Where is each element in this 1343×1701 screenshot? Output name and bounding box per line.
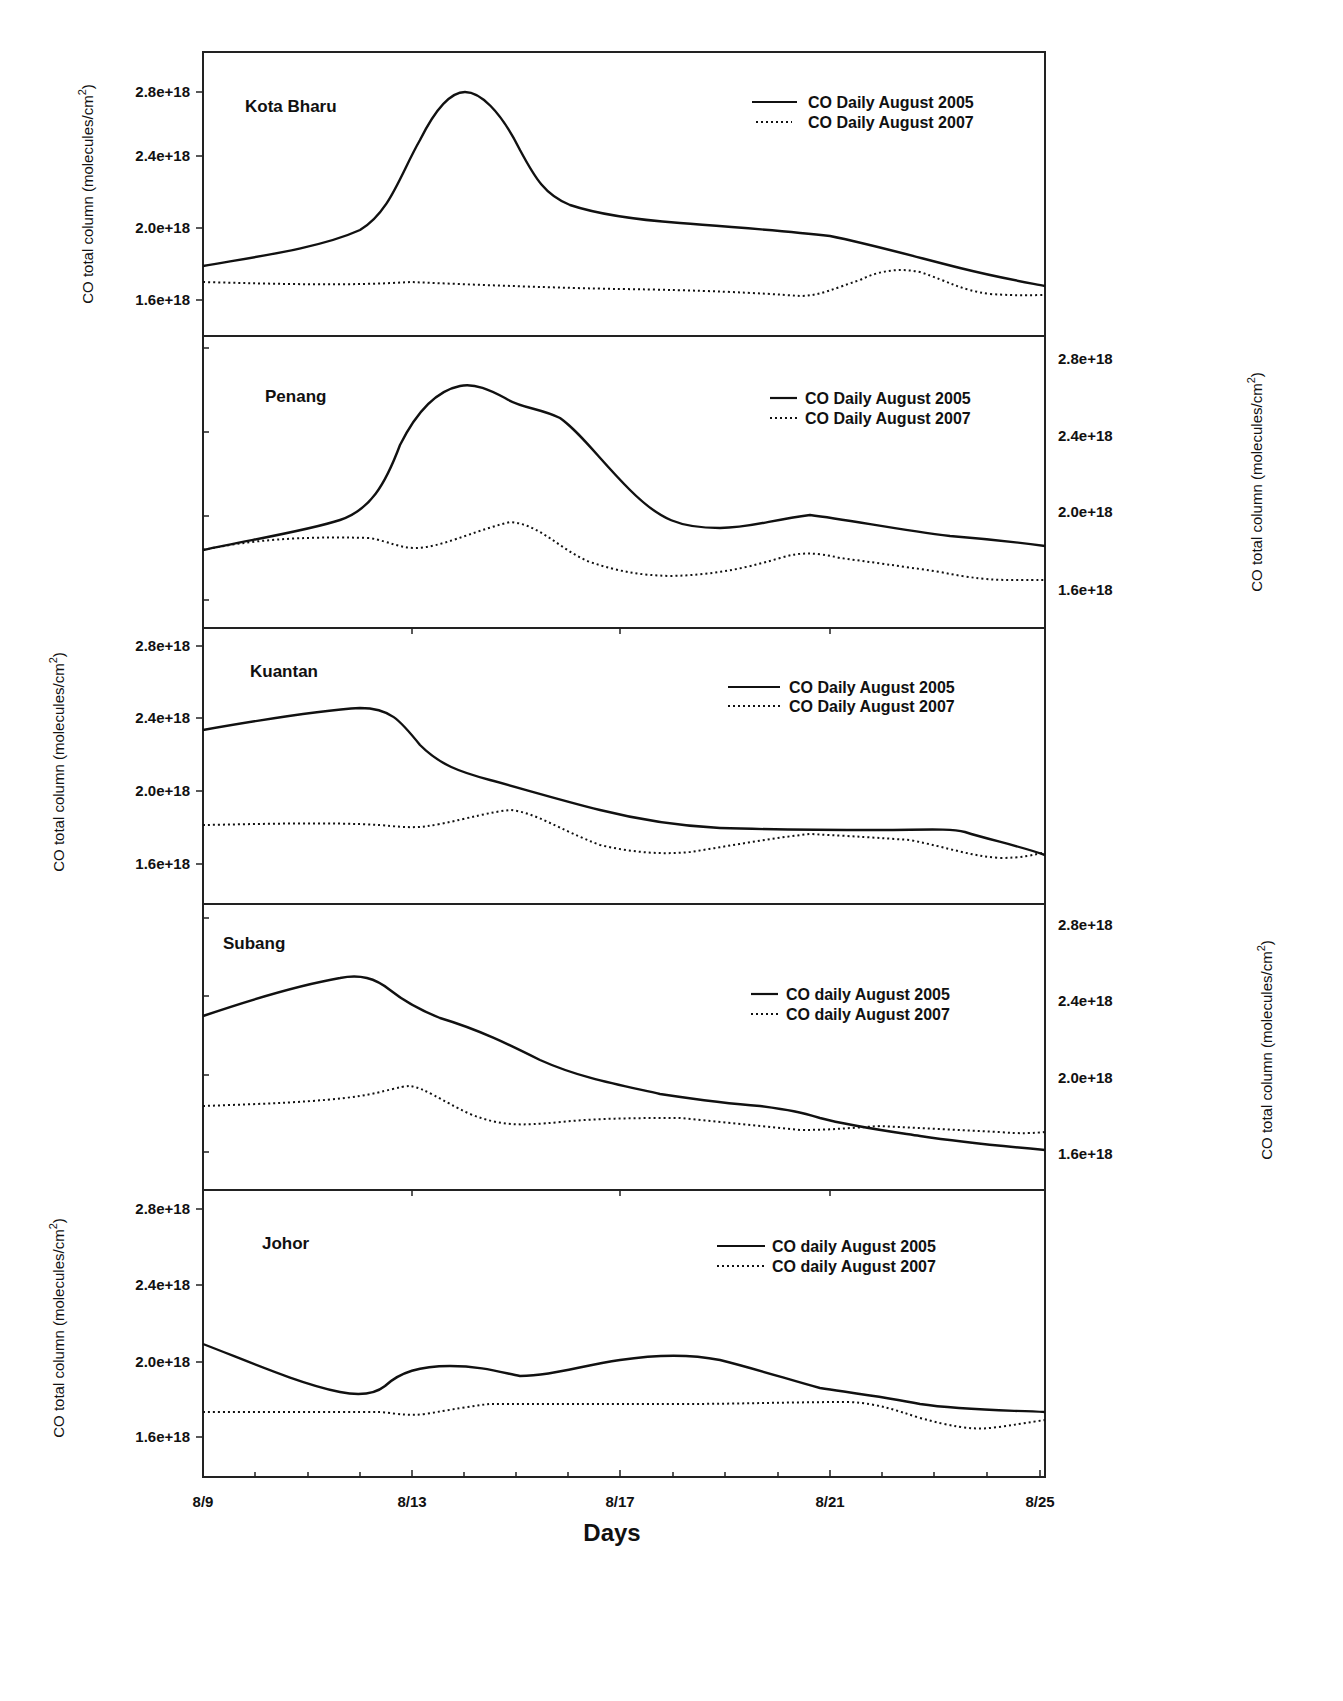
- legend-label-2007: CO Daily August 2007: [789, 698, 955, 715]
- y-tick-label: 2.0e+18: [1058, 1069, 1113, 1086]
- y-tick-label: 2.8e+18: [1058, 916, 1113, 933]
- plot-frame: [203, 904, 1045, 1190]
- plot-frame: [203, 336, 1045, 628]
- y-tick-label: 2.8e+18: [135, 1200, 190, 1217]
- x-tick-label: 8/25: [1025, 1493, 1054, 1510]
- station-label: Kota Bharu: [245, 97, 337, 116]
- y-axis-title: CO total column (molecules/cm2): [1255, 940, 1275, 1160]
- y-axis-right: 2.8e+18 2.4e+18 2.0e+18 1.6e+18 CO total…: [1058, 916, 1275, 1162]
- panel-penang: 2.8e+18 2.4e+18 2.0e+18 1.6e+18 CO total…: [203, 336, 1265, 628]
- y-axis-left: 2.8e+18 2.4e+18 2.0e+18 1.6e+18 CO total…: [76, 83, 203, 308]
- legend-label-2007: CO daily August 2007: [786, 1006, 950, 1023]
- y-tick-label: 1.6e+18: [1058, 581, 1113, 598]
- station-label: Penang: [265, 387, 326, 406]
- y-tick-label: 1.6e+18: [135, 291, 190, 308]
- y-axis-title: CO total column (molecules/cm2): [1245, 372, 1265, 592]
- legend: CO daily August 2005 CO daily August 200…: [751, 986, 950, 1023]
- y-tick-label: 2.0e+18: [135, 782, 190, 799]
- y-axis-title: CO total column (molecules/cm2): [47, 1218, 67, 1438]
- panel-kuantan: 2.8e+18 2.4e+18 2.0e+18 1.6e+18 CO total…: [47, 628, 1045, 904]
- legend: CO daily August 2005 CO daily August 200…: [717, 1238, 936, 1275]
- series-2007-line: [203, 1086, 1045, 1133]
- legend: CO Daily August 2005 CO Daily August 200…: [770, 390, 971, 427]
- y-tick-label: 2.4e+18: [135, 147, 190, 164]
- y-axis-title: CO total column (molecules/cm2): [76, 84, 96, 304]
- plot-frame: [203, 628, 1045, 904]
- series-2005-line: [203, 708, 1045, 855]
- y-tick-label: 2.4e+18: [1058, 992, 1113, 1009]
- y-tick-label: 2.8e+18: [135, 637, 190, 654]
- y-tick-label: 2.8e+18: [1058, 350, 1113, 367]
- y-tick-label: 1.6e+18: [1058, 1145, 1113, 1162]
- x-axis: [203, 1470, 1040, 1477]
- x-tick-label: 8/17: [605, 1493, 634, 1510]
- co-column-figure: 2.8e+18 2.4e+18 2.0e+18 1.6e+18 CO total…: [0, 0, 1343, 1701]
- legend-label-2005: CO Daily August 2005: [805, 390, 971, 407]
- y-axis-left: 2.8e+18 2.4e+18 2.0e+18 1.6e+18 CO total…: [47, 1200, 203, 1445]
- x-tick-label: 8/9: [193, 1493, 214, 1510]
- panel-subang: 2.8e+18 2.4e+18 2.0e+18 1.6e+18 CO total…: [203, 904, 1275, 1190]
- plot-frame: [203, 1190, 1045, 1477]
- panel-johor: 2.8e+18 2.4e+18 2.0e+18 1.6e+18 CO total…: [47, 1190, 1055, 1546]
- station-label: Subang: [223, 934, 285, 953]
- legend-label-2007: CO Daily August 2007: [805, 410, 971, 427]
- y-tick-label: 2.0e+18: [135, 1353, 190, 1370]
- legend-label-2005: CO Daily August 2005: [808, 94, 974, 111]
- y-tick-label: 1.6e+18: [135, 855, 190, 872]
- y-tick-label: 2.4e+18: [1058, 427, 1113, 444]
- series-2007-line: [203, 1402, 1045, 1429]
- y-axis-title: CO total column (molecules/cm2): [47, 652, 67, 872]
- legend-label-2007: CO daily August 2007: [772, 1258, 936, 1275]
- legend-label-2007: CO Daily August 2007: [808, 114, 974, 131]
- station-label: Kuantan: [250, 662, 318, 681]
- legend: CO Daily August 2005 CO Daily August 200…: [728, 679, 955, 715]
- y-tick-label: 1.6e+18: [135, 1428, 190, 1445]
- y-tick-label: 2.0e+18: [1058, 503, 1113, 520]
- y-tick-label: 2.8e+18: [135, 83, 190, 100]
- series-2007-line: [203, 810, 1045, 858]
- x-tick-label: 8/13: [397, 1493, 426, 1510]
- legend: CO Daily August 2005 CO Daily August 200…: [752, 94, 974, 131]
- y-axis-left: 2.8e+18 2.4e+18 2.0e+18 1.6e+18 CO total…: [47, 637, 203, 872]
- legend-label-2005: CO daily August 2005: [786, 986, 950, 1003]
- panel-kota-bharu: 2.8e+18 2.4e+18 2.0e+18 1.6e+18 CO total…: [76, 52, 1045, 336]
- x-axis-title: Days: [583, 1519, 640, 1546]
- x-tick-label: 8/21: [815, 1493, 844, 1510]
- y-tick-label: 2.0e+18: [135, 219, 190, 236]
- y-tick-label: 2.4e+18: [135, 1276, 190, 1293]
- station-label: Johor: [262, 1234, 310, 1253]
- series-2007-line: [203, 270, 1045, 296]
- y-axis-right: 2.8e+18 2.4e+18 2.0e+18 1.6e+18 CO total…: [1058, 350, 1265, 598]
- legend-label-2005: CO daily August 2005: [772, 1238, 936, 1255]
- y-tick-label: 2.4e+18: [135, 709, 190, 726]
- series-2005-line: [203, 1344, 1045, 1412]
- legend-label-2005: CO Daily August 2005: [789, 679, 955, 696]
